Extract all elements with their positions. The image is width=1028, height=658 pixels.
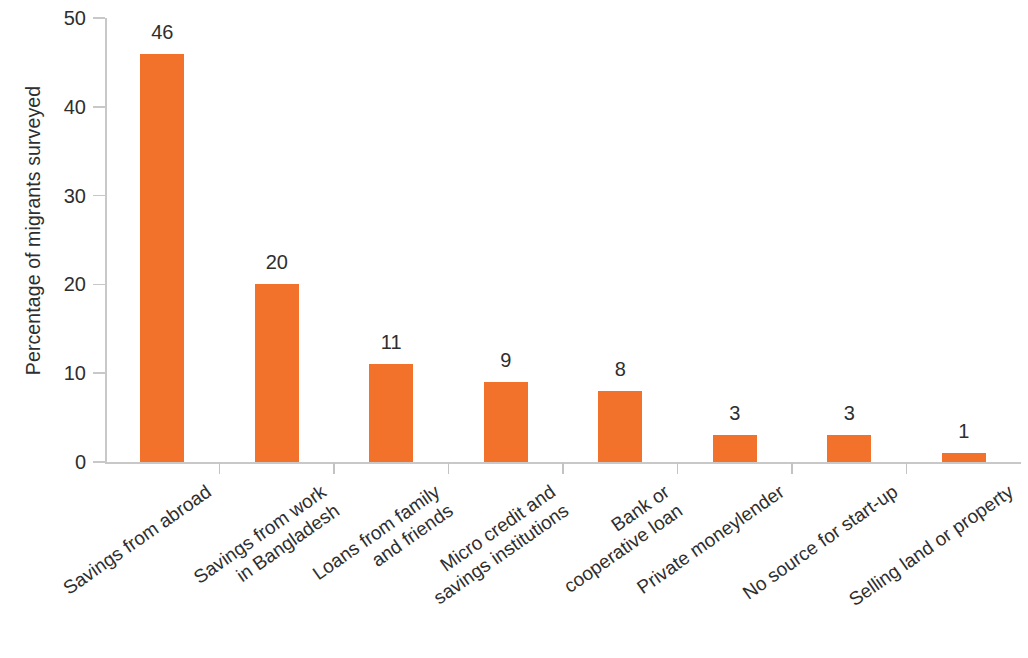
bar-value-label: 46 <box>151 22 173 42</box>
x-axis-tick <box>562 463 563 474</box>
bar-value-label: 1 <box>958 421 969 441</box>
bars-group <box>105 18 1021 462</box>
bar <box>484 382 528 462</box>
bar-value-label: 20 <box>266 252 288 272</box>
bar <box>255 284 299 462</box>
bar-value-label: 8 <box>615 359 626 379</box>
x-axis-tick <box>333 463 334 474</box>
bar <box>713 435 757 462</box>
bar <box>598 391 642 462</box>
x-axis-tick <box>791 463 792 474</box>
bar-chart: Percentage of migrants surveyed 01020304… <box>0 0 1028 658</box>
bar-value-label: 11 <box>381 332 402 352</box>
bar <box>369 364 413 462</box>
y-axis-tick <box>93 284 105 286</box>
bar-value-label: 3 <box>844 403 855 423</box>
bar <box>942 453 986 462</box>
y-axis-title: Percentage of migrants surveyed <box>18 0 48 463</box>
x-axis-tick <box>906 463 907 474</box>
y-axis-tick <box>93 17 105 19</box>
y-axis-tick <box>93 195 105 197</box>
y-axis-tick-label: 0 <box>40 451 86 474</box>
y-axis-tick-label: 50 <box>40 7 86 30</box>
x-axis-tick <box>677 463 678 474</box>
bar <box>140 54 184 462</box>
x-axis-tick <box>448 463 449 474</box>
bar <box>827 435 871 462</box>
bar-value-label: 9 <box>500 350 511 370</box>
y-axis-tick-label: 40 <box>40 95 86 118</box>
y-axis-tick <box>93 106 105 108</box>
x-axis-category-label: Savings from abroad <box>59 480 216 600</box>
y-axis-tick <box>93 461 105 463</box>
y-axis-tick-label: 10 <box>40 362 86 385</box>
y-axis-tick-label: 20 <box>40 273 86 296</box>
y-axis-tick-label: 30 <box>40 184 86 207</box>
bar-value-label: 3 <box>729 403 740 423</box>
y-axis-tick <box>93 372 105 374</box>
x-axis-tick <box>219 463 220 474</box>
